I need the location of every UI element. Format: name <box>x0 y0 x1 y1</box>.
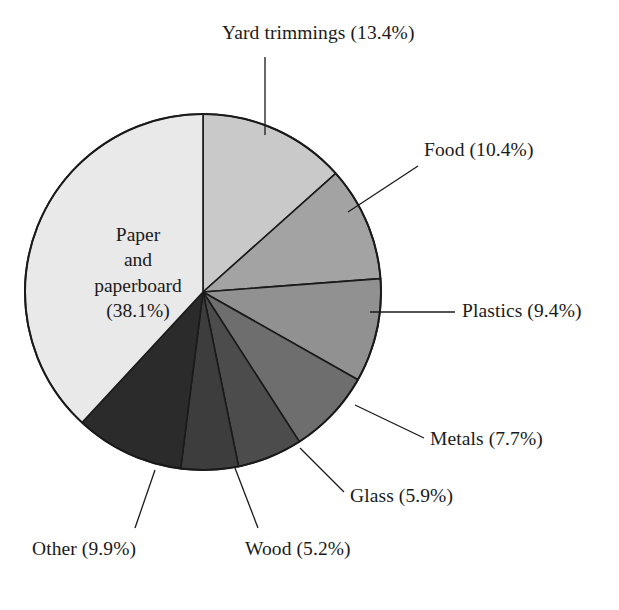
slice-label-other: Other (9.9%) <box>32 538 136 561</box>
inner-label-line-3: paperboard <box>53 273 223 298</box>
pie-chart-figure: Paper and paperboard (38.1%) Yard trimmi… <box>0 0 619 610</box>
leader-line-glass <box>300 448 344 492</box>
leader-line-food <box>348 166 418 212</box>
slice-label-metals: Metals (7.7%) <box>430 428 543 451</box>
leader-line-wood <box>235 468 258 528</box>
slice-label-glass: Glass (5.9%) <box>350 485 453 508</box>
inner-label-line-4: (38.1%) <box>53 298 223 323</box>
leader-line-metals <box>355 405 424 438</box>
leader-line-other <box>135 470 155 528</box>
inner-label-line-1: Paper <box>53 222 223 247</box>
inner-label-line-2: and <box>53 247 223 272</box>
slice-label-yard-trimmings: Yard trimmings (13.4%) <box>222 22 415 45</box>
slice-label-food: Food (10.4%) <box>424 139 534 162</box>
slice-label-plastics: Plastics (9.4%) <box>462 300 582 323</box>
slice-label-paper-and-paperboard: Paper and paperboard (38.1%) <box>53 222 223 323</box>
slice-label-wood: Wood (5.2%) <box>245 538 351 561</box>
